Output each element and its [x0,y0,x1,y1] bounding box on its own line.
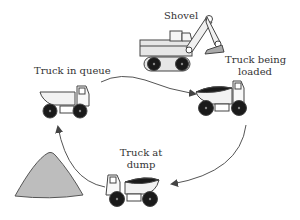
arrow-loaded-to-dump [172,125,246,184]
truck-being-loaded-label-line1: Truck being [225,54,285,66]
truck-being-loaded-label-line2: loaded [225,66,285,78]
truck-at-dump-label-line2: dump [111,159,171,171]
material-pile-icon [15,152,83,197]
loaded-dump-truck-icon [196,81,247,116]
diagram-graphics [0,0,300,220]
dumping-truck-icon [106,175,159,207]
empty-dump-truck-icon [40,86,89,118]
truck-being-loaded-label: Truck being loaded [225,54,285,78]
shovel-label: Shovel [164,10,198,22]
shovel-excavator-icon [140,16,224,72]
truck-at-dump-label: Truck at dump [111,147,171,171]
haulage-cycle-diagram: Shovel Truck in queue Truck being loaded… [0,0,300,220]
truck-at-dump-label-line1: Truck at [111,147,171,159]
truck-in-queue-label: Truck in queue [34,65,111,77]
arrow-queue-to-loaded [101,76,195,94]
